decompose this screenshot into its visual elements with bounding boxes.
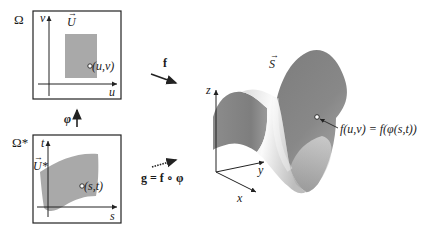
region-u-star-label: →U* — [33, 160, 48, 172]
g-arrow — [152, 160, 176, 167]
y-axis-label: y — [258, 164, 263, 176]
f-label: f — [163, 57, 167, 69]
point-uv-label: (u,v) — [92, 60, 114, 72]
t-axis-label: t — [41, 137, 44, 149]
v-axis-label: v — [40, 12, 45, 24]
param-box — [33, 135, 121, 223]
saddle-surface — [213, 50, 347, 193]
region-u-label: →U — [67, 16, 76, 28]
s-axis-label: s — [110, 210, 115, 222]
f-arrow — [151, 74, 176, 83]
surface-label: →S — [269, 58, 275, 70]
omega-star-label: Ω* — [12, 136, 28, 149]
u-axis-label: u — [109, 86, 115, 98]
point-st-label: (s,t) — [84, 180, 103, 192]
point-on-surface — [315, 115, 320, 120]
surface-point-label: f(u,v) = f(φ(s,t)) — [340, 123, 417, 135]
phi-label: φ — [64, 113, 71, 125]
x-axis-label: x — [237, 192, 242, 204]
omega-label: Ω — [14, 13, 24, 26]
domain-box — [33, 11, 121, 99]
z-axis-label: z — [206, 84, 211, 96]
g-label: g = f ∘ φ — [141, 172, 184, 184]
